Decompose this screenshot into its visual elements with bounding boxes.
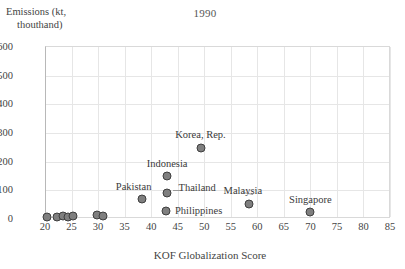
x-tick-label: 75 xyxy=(324,221,350,232)
x-tick-label: 20 xyxy=(32,221,58,232)
data-point-philippines[interactable] xyxy=(162,206,171,215)
gridline-vertical xyxy=(284,47,285,217)
point-label-indonesia: Indonesia xyxy=(147,158,188,169)
x-tick-label: 80 xyxy=(350,221,376,232)
point-label-pakistan: Pakistan xyxy=(116,181,152,192)
data-point[interactable] xyxy=(68,212,77,221)
y-axis-label-line2: thouthand) xyxy=(6,19,101,32)
y-axis-label: Emissions (kt, thouthand) xyxy=(6,6,101,31)
gridline-horizontal xyxy=(46,190,389,191)
gridline-horizontal xyxy=(46,76,389,77)
y-tick-label: 200 xyxy=(0,155,13,166)
gridline-horizontal xyxy=(46,162,389,163)
data-point-malaysia[interactable] xyxy=(244,199,253,208)
x-tick-label: 30 xyxy=(85,221,111,232)
x-tick-label: 35 xyxy=(112,221,138,232)
gridline-vertical xyxy=(125,47,126,217)
point-label-thailand: Thailand xyxy=(179,182,216,193)
point-label-malaysia: Malaysia xyxy=(224,185,263,196)
point-label-philippines: Philippines xyxy=(175,205,222,216)
data-point-korea-rep[interactable] xyxy=(196,143,205,152)
x-axis-label: KOF Globalization Score xyxy=(110,249,310,261)
data-point-thailand[interactable] xyxy=(162,189,171,198)
gridline-vertical xyxy=(390,47,391,217)
x-tick-label: 70 xyxy=(297,221,323,232)
data-point-pakistan[interactable] xyxy=(137,194,146,203)
y-tick-label: 300 xyxy=(0,127,13,138)
data-point[interactable] xyxy=(43,212,52,221)
gridline-vertical xyxy=(337,47,338,217)
x-tick-label: 40 xyxy=(138,221,164,232)
gridline-vertical xyxy=(98,47,99,217)
point-label-singapore: Singapore xyxy=(289,194,332,205)
data-point-singapore[interactable] xyxy=(306,207,315,216)
x-tick-label: 45 xyxy=(165,221,191,232)
x-tick-label: 60 xyxy=(244,221,270,232)
x-tick-label: 50 xyxy=(191,221,217,232)
gridline-vertical xyxy=(363,47,364,217)
y-tick-label: 400 xyxy=(0,98,13,109)
gridline-vertical xyxy=(72,47,73,217)
y-tick-label: 600 xyxy=(0,41,13,52)
gridline-horizontal xyxy=(46,104,389,105)
point-label-korea: Korea, Rep. xyxy=(175,129,225,140)
gridline-vertical xyxy=(151,47,152,217)
x-tick-label: 25 xyxy=(59,221,85,232)
x-tick-label: 55 xyxy=(218,221,244,232)
y-tick-label: 500 xyxy=(0,69,13,80)
scatter-chart: 1990 Emissions (kt, thouthand) KOF Globa… xyxy=(0,0,405,269)
data-point-indonesia[interactable] xyxy=(163,171,172,180)
y-tick-label: 0 xyxy=(0,213,13,224)
x-tick-label: 65 xyxy=(271,221,297,232)
gridline-vertical xyxy=(310,47,311,217)
y-axis-label-line1: Emissions (kt, xyxy=(6,6,66,17)
chart-title: 1990 xyxy=(155,7,255,19)
y-tick-label: 100 xyxy=(0,184,13,195)
x-tick-label: 85 xyxy=(377,221,403,232)
data-point[interactable] xyxy=(98,211,107,220)
